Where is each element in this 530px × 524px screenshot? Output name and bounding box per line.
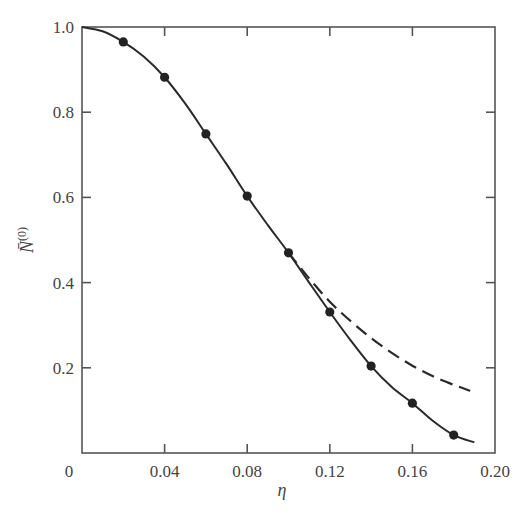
x-tick-label: 0.20	[480, 462, 510, 481]
data-point	[160, 73, 169, 82]
x-tick-labels: 00.040.080.120.160.20	[65, 462, 510, 481]
x-tick-label: 0.16	[398, 462, 428, 481]
data-point	[243, 192, 252, 201]
y-tick-labels: 0.20.40.60.81.0	[53, 18, 75, 378]
y-tick-label: 0.2	[53, 359, 74, 378]
data-point	[201, 129, 210, 138]
data-point	[367, 361, 376, 370]
x-tick-label: 0.08	[232, 462, 262, 481]
data-point	[325, 307, 334, 316]
y-tick-label: 0.8	[53, 103, 74, 122]
x-tick-label: 0	[65, 462, 74, 481]
data-point	[284, 248, 293, 257]
y-tick-label: 0.6	[53, 188, 74, 207]
dashed-curve	[289, 253, 471, 391]
x-tick-label: 0.04	[150, 462, 180, 481]
axis-ticks	[82, 27, 495, 453]
solid-curve	[82, 27, 474, 442]
data-point	[119, 37, 128, 46]
plot-frame	[82, 27, 495, 453]
y-tick-label: 0.4	[53, 274, 75, 293]
svg-text:N̄(0): N̄(0)	[15, 227, 37, 254]
data-point-markers	[119, 37, 459, 439]
data-point	[408, 399, 417, 408]
x-tick-label: 0.12	[315, 462, 345, 481]
chart: 00.040.080.120.160.20 0.20.40.60.81.0 η …	[0, 0, 530, 524]
y-tick-label: 1.0	[53, 18, 74, 37]
data-point	[449, 431, 458, 440]
x-axis-title: η	[278, 480, 287, 500]
y-axis-title: N̄(0)	[15, 227, 37, 254]
